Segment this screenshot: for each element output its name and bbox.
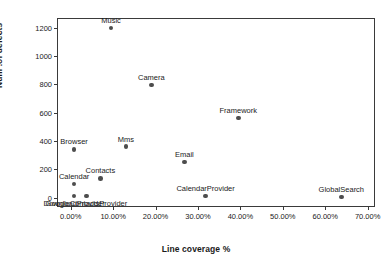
y-axis-tick xyxy=(54,141,58,142)
x-axis-tick-label: 70.00% xyxy=(355,212,380,221)
data-point-label: Email xyxy=(175,150,194,159)
x-axis-tick-label: 60.00% xyxy=(313,212,338,221)
scatter-chart: Num .of defects Line coverage % 02004006… xyxy=(0,0,392,266)
x-axis-tick-label: 40.00% xyxy=(228,212,253,221)
x-axis-tick xyxy=(283,206,284,210)
data-point-label: Music xyxy=(101,16,121,25)
data-point xyxy=(72,194,77,199)
x-axis-tick-label: 0.00% xyxy=(60,212,81,221)
y-axis-tick xyxy=(54,28,58,29)
x-axis-tick xyxy=(240,206,241,210)
data-point-label: Camera xyxy=(138,73,165,82)
x-axis-title: Line coverage % xyxy=(0,244,392,254)
y-axis-tick-label: 800 xyxy=(39,80,52,89)
y-axis-title: Num .of defects xyxy=(0,0,4,88)
y-axis-tick xyxy=(54,84,58,85)
x-axis-tick-label: 10.00% xyxy=(100,212,125,221)
data-point xyxy=(124,144,129,149)
x-axis-tick xyxy=(156,206,157,210)
data-point xyxy=(236,116,241,121)
y-axis-tick xyxy=(54,113,58,114)
data-point-label: GlobalSearch xyxy=(319,185,364,194)
y-axis-tick xyxy=(54,169,58,170)
data-point xyxy=(84,194,89,199)
y-axis-tick-label: 1200 xyxy=(35,23,52,32)
y-axis-tick xyxy=(54,56,58,57)
x-axis-tick xyxy=(368,206,369,210)
x-axis-tick xyxy=(198,206,199,210)
data-point-label: GoogleContactsProvider xyxy=(46,199,128,208)
data-point-label: Browser xyxy=(60,137,88,146)
y-axis-tick-label: 600 xyxy=(39,108,52,117)
x-axis-tick-label: 50.00% xyxy=(270,212,295,221)
data-point-label: Calendar xyxy=(59,172,89,181)
data-point-label: Contacts xyxy=(86,166,116,175)
data-point-label: CalendarProvider xyxy=(176,184,234,193)
data-point xyxy=(149,83,154,88)
data-point xyxy=(203,194,208,199)
data-point-label: Mms xyxy=(118,135,134,144)
data-point xyxy=(109,26,114,31)
x-axis-tick-label: 30.00% xyxy=(185,212,210,221)
y-axis-tick-label: 1000 xyxy=(35,51,52,60)
plot-area: 0200400600800100012000.00%10.00%20.00%30… xyxy=(57,18,375,207)
data-point xyxy=(98,176,103,181)
data-point xyxy=(72,182,77,187)
data-point-label: Framework xyxy=(220,106,258,115)
data-point xyxy=(339,195,344,200)
data-point xyxy=(182,160,187,165)
y-axis-tick-label: 400 xyxy=(39,136,52,145)
data-point xyxy=(72,147,77,152)
x-axis-tick xyxy=(325,206,326,210)
x-axis-tick-label: 20.00% xyxy=(143,212,168,221)
y-axis-tick-label: 200 xyxy=(39,165,52,174)
